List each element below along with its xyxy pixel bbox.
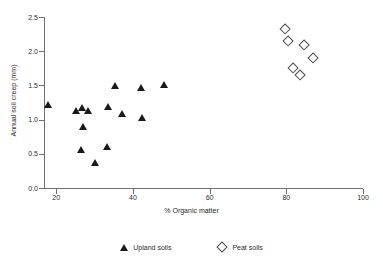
x-axis-line [44,188,363,189]
y-tick-label: 1.0 [18,116,38,123]
data-point-upland [118,110,126,117]
data-point-upland [91,159,99,166]
scatter-chart: 0.00.51.01.52.02.5 20406080100 % Organic… [0,0,383,265]
data-point-upland [44,101,52,108]
y-axis-title: Annual soil creep (mm) [10,41,17,161]
filled-triangle-icon [120,244,128,251]
x-tick-label: 60 [198,194,222,201]
data-point-upland [111,82,119,89]
y-tick [39,188,44,189]
data-point-upland [84,107,92,114]
y-tick-label: 2.5 [18,14,38,21]
legend-item-peat-soils[interactable]: Peat soils [217,243,262,251]
data-point-upland [104,103,112,110]
legend-label-peat-soils: Peat soils [232,244,262,251]
data-point-upland [138,114,146,121]
y-tick-label: 0.5 [18,150,38,157]
y-tick-label: 1.5 [18,82,38,89]
legend-label-upland-soils: Upland soils [133,244,171,251]
x-tick-label: 100 [351,194,375,201]
chart-legend: Upland soils Peat soils [0,243,383,251]
y-tick-label: 2.0 [18,48,38,55]
data-point-upland [79,123,87,130]
open-diamond-icon [217,241,228,252]
data-point-upland [137,84,145,91]
x-tick-label: 80 [274,194,298,201]
data-point-upland [160,81,168,88]
x-axis-title: % Organic matter [0,207,383,214]
y-tick-label: 0.0 [18,185,38,192]
x-tick-label: 20 [44,194,68,201]
data-point-upland [77,146,85,153]
x-tick-label: 40 [121,194,145,201]
legend-item-upland-soils[interactable]: Upland soils [120,243,171,251]
data-point-upland [103,143,111,150]
